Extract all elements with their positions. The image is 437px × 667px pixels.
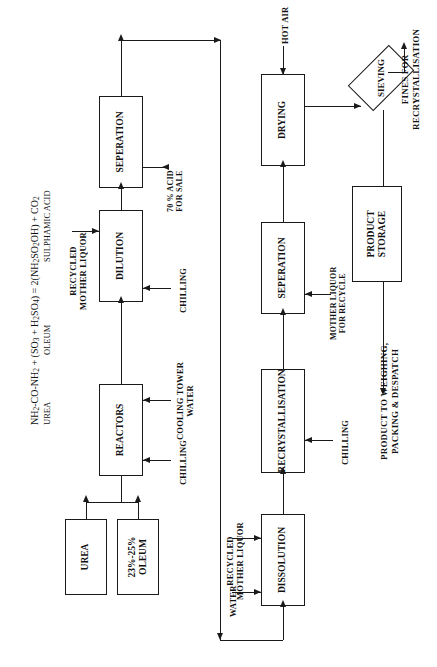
label-chilling-reactors: CHILLING [178,440,188,485]
label-fines-line1: FINES FOR [400,55,410,105]
connector-feed-to-reactors [121,476,122,502]
connector-dissolution-recrystallisation [283,473,284,514]
arrowhead-dilution-seperation1 [118,182,124,189]
label-cooling-tower-water-line1: COOLING TOWER [175,362,185,440]
arrowhead-chilling-reactors [143,457,150,463]
node-seperation-1-label: SEPERATION [115,111,126,172]
arrowhead-recrystallisation-seperation2 [280,308,286,315]
node-dissolution-label: DISSOLUTION [277,527,288,593]
arrowhead-oleum-up [135,495,141,502]
connector-reactors-dilution [121,302,122,384]
connector-seperation1-up [121,40,122,96]
label-product-despatch-line2: PACKING & DESPATCH [390,349,400,454]
label-acid-for-sale: 70 % ACID FOR SALE [166,170,185,212]
node-oleum: 23%-25% OLEUM [117,519,159,595]
node-seperation-2-label: SEPERATION [277,237,288,298]
node-drying: DRYING [261,74,305,166]
label-fines-line2: RECRYSTALLISATION [411,29,421,130]
connector-right-rail-down [220,40,221,640]
arrowhead-chilling-dilution [143,285,150,291]
node-product-storage-line2: STORAGE [377,211,387,257]
arrowhead-chilling-recrystallisation [305,437,312,443]
node-oleum-label-line1: 23%-25% [127,536,137,577]
node-reactors: REACTORS [99,384,143,476]
equation-reactant-urea-label: UREA [41,402,53,425]
label-recycled-ml-bottom-line1: RECYCLED [225,536,235,585]
node-seperation-2: SEPERATION [261,222,305,314]
label-product-despatch: PRODUCT TO WEIGHING, PACKING & DESPATCH [379,343,400,460]
node-dilution-label: DILUTION [115,232,126,280]
node-reactors-label: REACTORS [115,404,126,457]
label-fines-for-recrystallisation: FINES FOR RECRYSTALLISATION [400,29,421,130]
label-acid-for-sale-line2: FOR SALE [175,170,184,211]
arrowhead-recycled-ml-dissolution [254,535,261,541]
arrowhead-seperation2-drying [280,160,286,167]
label-hot-air: HOT AIR [280,7,290,44]
node-dissolution: DISSOLUTION [261,514,305,606]
connector-feed-junction [86,502,139,503]
label-mother-liquor-recycle-line2: FOR RECYCLE [338,273,347,333]
arrowhead-rail-into-dissolution [280,600,286,607]
label-chilling-dilution: CHILLING [178,268,188,313]
arrowhead-hot-air-drying [280,68,286,75]
label-recycled-ml-bottom-line2: MOTHER LIQUOR [235,522,245,600]
node-oleum-label: 23%-25% OLEUM [127,536,150,577]
arrowhead-right-rail-down [217,633,223,640]
connector-bottom-rail [220,640,283,641]
node-drying-label: DRYING [277,101,288,139]
node-product-storage: PRODUCT STORAGE [352,186,402,282]
arrowhead-water-dissolution [254,589,261,595]
node-recrystallisation: RECRYSTALLISATION [261,369,305,473]
arrowhead-recycled-ml-dilution [92,228,99,234]
label-cooling-tower-water-line2: WATER [185,385,195,417]
label-acid-for-sale-line1: 70 % ACID [166,170,175,212]
arrowhead-reactors-dilution [118,296,124,303]
label-chilling-recrystallisation: CHILLING [340,420,350,465]
label-recycled-mother-liquor-top: RECYCLED MOTHER LIQUOR [68,232,88,310]
arrowhead-drying-sieving [354,103,361,109]
arrowhead-mother-liquor-recycle [305,291,312,297]
connector-recrystallisation-seperation2 [283,314,284,369]
arrowhead-acid-for-sale [162,164,169,170]
node-product-storage-label: PRODUCT STORAGE [366,211,389,258]
node-product-storage-line1: PRODUCT [366,211,376,258]
arrowhead-cooling-tower-water [143,397,150,403]
arrowhead-dissolution-recrystallisation [280,467,286,474]
label-cooling-tower-water: COOLING TOWER WATER [175,362,195,440]
label-recycled-ml-top-line1: RECYCLED [68,246,78,295]
equation-reactant-oleum-label: OLEUM [41,325,53,355]
label-recycled-mother-liquor-bottom: RECYCLED MOTHER LIQUOR [225,522,245,600]
node-oleum-label-line2: OLEUM [138,539,148,575]
node-sieving-label: SIEVING [376,59,386,97]
connector-rail-into-dissolution [283,606,284,640]
process-flow-diagram: NH2-CO-NH2 + (SO3 + H2SO4) = 2(NH2SO2OH)… [0,0,437,667]
connector-top-rail [121,40,221,41]
node-urea-label: UREA [80,544,91,571]
connector-dilution-seperation1 [121,188,122,210]
connector-oleum-up [138,502,139,520]
connector-drying-sieving [305,106,361,107]
node-dilution: DILUTION [99,210,143,302]
connector-urea-up [86,502,87,520]
label-mother-liquor-for-recycle: MOTHER LIQUOR FOR RECYCLE [329,267,348,341]
node-seperation-1: SEPERATION [99,96,143,188]
connector-sieving-product-storage [383,110,384,186]
node-urea: UREA [65,519,107,595]
node-recrystallisation-label: RECRYSTALLISATION [277,369,288,472]
label-recycled-ml-top-line2: MOTHER LIQUOR [78,232,88,310]
label-mother-liquor-recycle-line1: MOTHER LIQUOR [329,267,338,341]
equation-product-label: SULPHAMIC ACID [41,190,53,262]
label-product-despatch-line1: PRODUCT TO WEIGHING, [379,343,389,460]
connector-seperation2-drying [283,166,284,222]
arrowhead-urea-up [83,495,89,502]
